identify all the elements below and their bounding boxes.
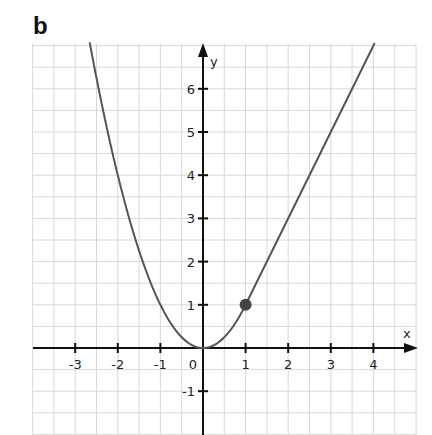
y-tick-label: -1	[182, 384, 195, 399]
y-tick-label: 6	[187, 82, 195, 97]
x-tick-label: 0	[189, 357, 197, 372]
x-tick-label: 2	[284, 357, 292, 372]
chart-plot: -3-2-101234-1123456 x y	[0, 0, 432, 435]
x-tick-label: 4	[369, 357, 377, 372]
x-tick-label: 3	[327, 357, 335, 372]
y-tick-label: 3	[187, 211, 195, 226]
y-axis-label: y	[210, 54, 218, 69]
y-tick-label: 1	[187, 298, 195, 313]
x-axis-label: x	[403, 326, 411, 341]
point-marker	[240, 299, 252, 311]
grid-lines	[33, 44, 416, 435]
axes	[33, 43, 418, 435]
y-tick-label: 4	[187, 168, 195, 183]
y-tick-label: 2	[187, 255, 195, 270]
function-curve	[90, 42, 375, 348]
x-tick-label: -2	[111, 357, 124, 372]
x-tick-label: -1	[154, 357, 167, 372]
x-tick-label: 1	[241, 357, 249, 372]
y-tick-label: 5	[187, 125, 195, 140]
x-tick-label: -3	[69, 357, 82, 372]
